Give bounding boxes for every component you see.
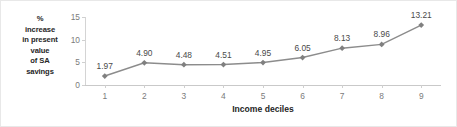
data-point-marker xyxy=(339,45,345,51)
data-point-label: 1.97 xyxy=(97,61,113,71)
x-tick-label: 7 xyxy=(340,91,345,101)
x-tick-label: 5 xyxy=(261,91,266,101)
y-tick-label: 15 xyxy=(71,12,80,22)
x-tick-mark xyxy=(263,85,264,88)
data-point-marker xyxy=(221,62,227,68)
y-tick-mark xyxy=(82,85,85,86)
y-axis-title: % increase in present value of SA saving… xyxy=(9,14,71,78)
y-axis-title-line-4: value xyxy=(9,46,71,57)
x-tick-label: 9 xyxy=(419,91,424,101)
x-tick-mark xyxy=(421,85,422,88)
x-tick-mark xyxy=(144,85,145,88)
chart-figure: % increase in present value of SA saving… xyxy=(0,0,457,127)
data-point-marker xyxy=(181,62,187,68)
y-axis-title-line-3: in present xyxy=(9,35,71,46)
data-point-label: 4.90 xyxy=(136,48,152,58)
data-point-marker xyxy=(102,73,108,79)
y-axis-title-line-5: of SA xyxy=(9,56,71,67)
x-tick-label: 3 xyxy=(182,91,187,101)
x-tick-label: 1 xyxy=(102,91,107,101)
y-tick-label: 5 xyxy=(75,57,80,67)
data-point-label: 4.51 xyxy=(215,50,231,60)
x-tick-mark xyxy=(382,85,383,88)
x-tick-label: 2 xyxy=(142,91,147,101)
y-axis-title-line-2: increase xyxy=(9,25,71,36)
y-tick-label: 0 xyxy=(75,80,80,90)
data-point-marker xyxy=(418,22,424,28)
x-axis-title: Income deciles xyxy=(85,104,441,114)
data-point-label: 4.95 xyxy=(255,48,271,58)
data-point-marker xyxy=(379,41,385,47)
x-tick-mark xyxy=(184,85,185,88)
x-tick-label: 6 xyxy=(300,91,305,101)
data-point-label: 13.21 xyxy=(411,10,432,20)
x-tick-mark xyxy=(223,85,224,88)
x-tick-label: 4 xyxy=(221,91,226,101)
data-point-marker xyxy=(141,60,147,66)
data-point-marker xyxy=(300,55,306,61)
y-tick-label: 10 xyxy=(71,35,80,45)
data-point-label: 6.05 xyxy=(294,43,310,53)
y-axis-title-line-1: % xyxy=(9,14,71,25)
plot-area: 051015 123456789 1.974.904.484.514.956.0… xyxy=(85,17,441,85)
y-axis-title-line-6: savings xyxy=(9,67,71,78)
x-tick-mark xyxy=(342,85,343,88)
data-point-label: 4.48 xyxy=(176,50,192,60)
data-point-label: 8.96 xyxy=(374,29,390,39)
data-point-marker xyxy=(260,60,266,66)
x-tick-label: 8 xyxy=(379,91,384,101)
x-tick-mark xyxy=(303,85,304,88)
data-point-label: 8.13 xyxy=(334,33,350,43)
x-tick-mark xyxy=(105,85,106,88)
